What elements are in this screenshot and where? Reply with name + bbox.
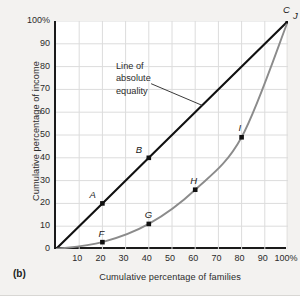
x-axis-title: Cumulative percentage of families [54, 272, 286, 282]
point-label-f: F [98, 228, 104, 239]
panel-letter: (b) [13, 268, 26, 279]
annotation-line-2: absolute [116, 72, 151, 84]
annotation-line-of-absolute-equality: Line ofabsoluteequality [116, 60, 151, 97]
data-point-g [147, 222, 152, 227]
point-label-c: C [283, 4, 290, 15]
annotation-line-1: Line of [116, 60, 151, 72]
y-tick-label-100: 100% [4, 15, 50, 25]
x-tick-label-100: 100% [266, 253, 300, 263]
point-label-g: G [145, 209, 152, 220]
lorenz-curve-figure: Cumulative percentage of income (b) 0102… [0, 0, 300, 299]
data-point-f [100, 240, 105, 245]
point-label-b: B [136, 144, 142, 155]
plot-area [54, 21, 286, 249]
chart-canvas [56, 21, 288, 249]
data-point-a [100, 201, 105, 206]
y-tick-label-50: 50 [4, 129, 50, 139]
annotation-line-3: equality [116, 85, 151, 97]
y-tick-label-90: 90 [4, 38, 50, 48]
annotation-leader-line [151, 84, 202, 106]
y-tick-label-80: 80 [4, 61, 50, 71]
data-point-j [286, 21, 288, 23]
leader-line [151, 84, 202, 106]
data-point-b [147, 156, 152, 161]
point-label-h: H [190, 175, 197, 186]
point-label-i: I [239, 122, 242, 133]
y-tick-label-40: 40 [4, 152, 50, 162]
figure-bottom-rule [0, 295, 300, 299]
series-points [100, 21, 288, 244]
point-label-a: A [89, 189, 95, 200]
y-tick-label-60: 60 [4, 106, 50, 116]
y-tick-label-30: 30 [4, 175, 50, 185]
y-tick-label-70: 70 [4, 83, 50, 93]
data-point-h [193, 187, 198, 192]
point-label-j: J [293, 10, 298, 21]
y-tick-label-20: 20 [4, 197, 50, 207]
data-point-i [239, 135, 244, 140]
y-tick-label-0: 0 [4, 243, 50, 253]
y-tick-label-10: 10 [4, 220, 50, 230]
